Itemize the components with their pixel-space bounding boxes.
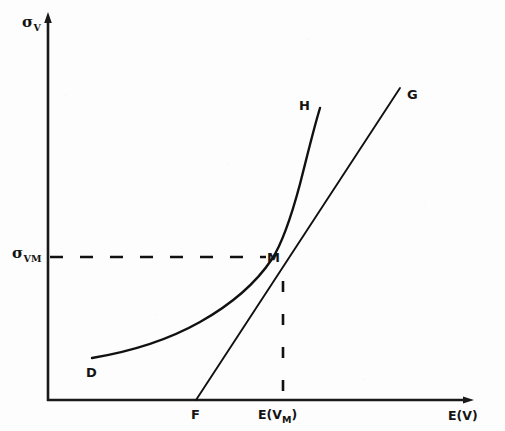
label-m: M [267,250,280,265]
y-axis-arrow-icon [44,12,52,23]
x-axis-title: E(V) [448,408,478,423]
tangent-line-fg [196,88,400,400]
axes-group [44,12,474,404]
curve-dh [92,108,320,358]
x-tick-label-evm: E(VM) [258,407,297,425]
label-f: F [191,407,200,422]
x-axis-arrow-icon [463,396,474,403]
y-axis-title: σV [22,13,42,33]
label-d: D [86,365,97,380]
label-g: G [407,87,418,102]
label-h: H [299,98,310,113]
technical-diagram: D H F G M σV σVM E(VM) E(V) [0,0,505,431]
axis-labels-group: σV σVM E(VM) E(V) [12,13,478,425]
guide-lines-group [50,257,283,392]
y-tick-label-sigma-vm: σVM [12,244,42,264]
